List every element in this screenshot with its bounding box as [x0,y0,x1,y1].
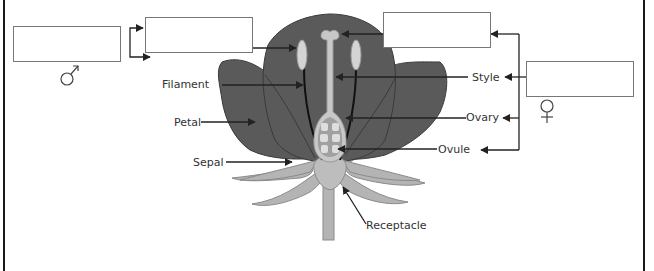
answer-box-anther[interactable] [145,17,253,53]
label-filament: Filament [162,78,209,91]
answer-box-stigma[interactable] [383,12,491,48]
male-symbol-icon [61,66,78,85]
answer-box-female[interactable] [526,61,634,97]
label-sepal: Sepal [193,156,224,169]
label-ovary: Ovary [466,111,499,124]
label-ovule: Ovule [438,143,470,156]
label-petal: Petal [174,116,201,129]
female-symbol-icon [541,100,553,123]
receptacle [314,156,347,240]
flower-diagram: Filament Petal Sepal Style Ovary Ovule R… [0,0,654,271]
label-receptacle: Receptacle [366,219,427,232]
answer-box-male[interactable] [13,26,121,62]
label-style: Style [472,71,500,84]
